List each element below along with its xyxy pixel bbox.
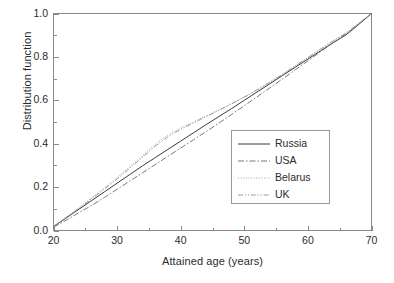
x-tick-label: 60 <box>293 234 323 246</box>
y-axis-title: Distribution function <box>21 0 33 171</box>
y-tick-label: 0.2 <box>20 180 48 192</box>
x-tick-major <box>181 226 182 231</box>
legend-label: USA <box>275 155 297 166</box>
x-tick-minor <box>340 228 341 231</box>
legend-label: Russia <box>275 138 307 149</box>
y-tick-minor <box>54 35 57 36</box>
legend-label: Belarus <box>275 172 311 183</box>
y-tick-major <box>54 100 59 101</box>
x-axis-title: Attained age (years) <box>53 255 372 267</box>
x-tick-major <box>372 226 373 231</box>
chart-figure: 203040506070 0.00.20.40.60.81.0 Distribu… <box>0 0 394 283</box>
y-tick-minor <box>54 79 57 80</box>
x-tick-minor <box>85 228 86 231</box>
x-tick-label: 30 <box>102 234 132 246</box>
legend-line-sample <box>237 190 271 200</box>
x-tick-label: 70 <box>357 234 387 246</box>
y-tick-minor <box>54 165 57 166</box>
y-tick-minor <box>54 122 57 123</box>
y-tick-minor <box>54 209 57 210</box>
x-tick-major <box>244 226 245 231</box>
legend-label: UK <box>275 189 290 200</box>
legend-item-usa[interactable]: USA <box>232 152 329 169</box>
y-tick-label: 0.0 <box>20 224 48 236</box>
x-tick-label: 20 <box>39 234 69 246</box>
legend-line-sample <box>237 156 271 166</box>
y-tick-major <box>54 187 59 188</box>
x-tick-label: 50 <box>229 234 259 246</box>
x-tick-label: 40 <box>166 234 196 246</box>
y-tick-major <box>54 14 59 15</box>
x-tick-minor <box>213 228 214 231</box>
legend-line-sample <box>237 173 271 183</box>
y-tick-major <box>54 231 59 232</box>
legend-line-sample <box>237 139 271 149</box>
x-tick-major <box>117 226 118 231</box>
legend: RussiaUSABelarusUK <box>231 130 330 204</box>
legend-item-uk[interactable]: UK <box>232 186 329 203</box>
x-tick-minor <box>149 228 150 231</box>
x-tick-major <box>308 226 309 231</box>
x-tick-minor <box>276 228 277 231</box>
y-tick-major <box>54 57 59 58</box>
legend-item-belarus[interactable]: Belarus <box>232 169 329 186</box>
y-tick-major <box>54 144 59 145</box>
legend-item-russia[interactable]: Russia <box>232 135 329 152</box>
